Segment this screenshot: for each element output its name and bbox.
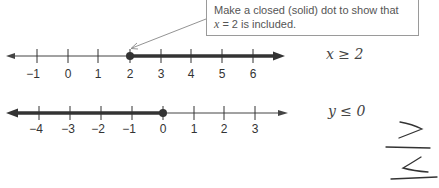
greater-than-stroke	[399, 122, 422, 138]
svg-text:6: 6	[250, 67, 257, 81]
svg-text:0: 0	[160, 122, 167, 136]
svg-text:2: 2	[221, 122, 228, 136]
svg-text:−2: −2	[91, 122, 105, 136]
number-line-2: −4 −3 −2 −1 0 1 2 3	[6, 106, 288, 136]
svg-text:5: 5	[219, 67, 226, 81]
svg-text:1: 1	[95, 67, 102, 81]
less-than-stroke	[403, 157, 428, 172]
arrow-left-icon	[6, 109, 18, 118]
svg-text:−1: −1	[122, 122, 136, 136]
callout-arrow	[131, 19, 206, 49]
svg-text:0: 0	[65, 67, 72, 81]
arrow-right-icon	[273, 52, 285, 61]
handwritten-symbols	[386, 122, 437, 179]
closed-dot	[126, 52, 134, 60]
number-line-1: −1 0 1 2 3 4 5 6	[6, 49, 285, 81]
svg-text:−3: −3	[61, 122, 75, 136]
arrow-left-icon	[6, 53, 15, 59]
underline-stroke	[386, 147, 430, 148]
inequality-label-2: y ≤ 0	[328, 103, 365, 119]
svg-text:2: 2	[127, 67, 134, 81]
svg-text:−1: −1	[26, 67, 40, 81]
svg-text:−4: −4	[29, 122, 43, 136]
svg-text:1: 1	[191, 122, 198, 136]
underline-stroke	[391, 177, 437, 179]
closed-dot	[159, 109, 167, 117]
svg-text:3: 3	[158, 67, 165, 81]
inequality-label-1: x ≥ 2	[326, 46, 363, 62]
number-lines-figure: −1 0 1 2 3 4 5 6 −4 −3 −2	[0, 0, 439, 188]
arrow-right-icon	[278, 110, 288, 116]
svg-text:3: 3	[252, 122, 259, 136]
svg-text:4: 4	[188, 67, 195, 81]
